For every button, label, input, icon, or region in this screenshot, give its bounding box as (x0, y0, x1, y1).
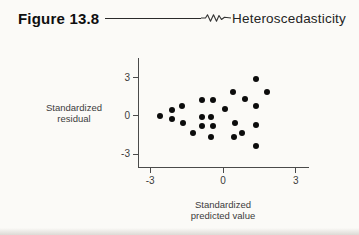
x-tick-label: 0 (211, 175, 235, 186)
data-point (157, 113, 163, 119)
data-point (199, 97, 205, 103)
data-point (242, 96, 248, 102)
data-point (179, 103, 185, 109)
data-point (199, 114, 205, 120)
data-point (222, 106, 228, 112)
data-point (208, 134, 214, 140)
x-tick-label: -3 (138, 175, 162, 186)
data-point (264, 89, 270, 95)
y-axis-label-line2: residual (28, 113, 120, 124)
y-axis-label-line1: Standardized (28, 102, 120, 113)
figure-header: Figure 13.8 Heteroscedasticity (18, 6, 346, 30)
data-point (190, 130, 196, 136)
data-point (253, 122, 259, 128)
data-point (239, 130, 245, 136)
y-axis-label: Standardized residual (28, 102, 120, 124)
data-point (199, 123, 205, 129)
page-scan-shadow (0, 228, 359, 235)
y-tick (133, 154, 138, 155)
data-point (169, 107, 175, 113)
y-axis (138, 58, 139, 168)
data-point (180, 120, 186, 126)
y-tick (133, 115, 138, 116)
data-point (253, 143, 259, 149)
data-point (232, 120, 238, 126)
data-point (210, 123, 216, 129)
x-tick-label: 3 (284, 175, 308, 186)
x-tick (150, 168, 151, 173)
y-tick-label: 3 (108, 72, 130, 84)
data-point (208, 114, 214, 120)
figure-topic: Heteroscedasticity (232, 11, 346, 26)
data-point (253, 76, 259, 82)
squiggle-icon (201, 12, 231, 24)
figure-rule (105, 18, 201, 19)
data-point (169, 116, 175, 122)
data-point (210, 97, 216, 103)
x-tick (295, 168, 296, 173)
data-point (253, 103, 259, 109)
y-tick (133, 77, 138, 78)
x-axis-label: Standardized predicted value (163, 199, 283, 221)
data-point (230, 89, 236, 95)
figure-label: Figure 13.8 (18, 10, 99, 27)
x-tick (223, 168, 224, 173)
x-axis (138, 167, 309, 168)
x-axis-label-line2: predicted value (163, 210, 283, 221)
y-tick-label: -3 (108, 148, 130, 160)
figure-page: Figure 13.8 Heteroscedasticity -30330-3 … (0, 0, 359, 235)
x-axis-label-line1: Standardized (163, 199, 283, 210)
data-point (231, 134, 237, 140)
